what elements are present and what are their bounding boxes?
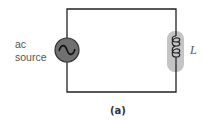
figure-caption: (a) [110,105,126,116]
inductor-label: L [189,43,197,57]
source-label-line2: source [15,51,47,63]
inductor [167,31,184,72]
circuit-diagram: ac source L (a) [0,0,206,120]
source-label-line1: ac [15,38,26,50]
bottom-wire [67,62,176,92]
ac-source [55,38,79,62]
top-wire [67,9,176,38]
circuit-wires [67,9,176,92]
